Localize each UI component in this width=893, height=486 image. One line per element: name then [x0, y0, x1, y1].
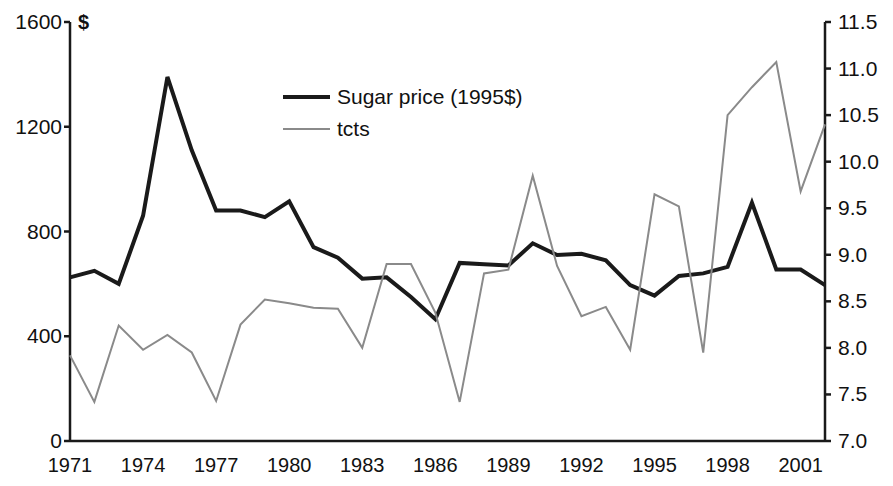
x-axis-tick-label: 1971	[30, 455, 110, 475]
right-axis-tick-label: 11.0	[838, 58, 877, 79]
right-axis-tick-label: 7.0	[838, 430, 867, 451]
x-axis-tick-label: 2001	[761, 455, 841, 475]
left-axis-tick-label: 1200	[0, 116, 62, 137]
x-axis-tick-label: 1980	[249, 455, 329, 475]
right-axis-tick-label: 7.5	[838, 383, 867, 404]
legend-sample-lines	[283, 97, 330, 129]
right-axis-tick-label: 10.0	[838, 151, 879, 172]
x-axis-tick-label: 1995	[615, 455, 695, 475]
legend-label-sugar-price: Sugar price (1995$)	[337, 86, 523, 107]
series-line-sugar-price	[70, 77, 825, 319]
x-axis-tick-label: 1992	[541, 455, 621, 475]
chart-figure: $ 040080012001600 7.07.58.08.59.09.510.0…	[0, 0, 893, 486]
x-axis-tick-label: 1983	[322, 455, 402, 475]
x-axis-tick-label: 1974	[103, 455, 183, 475]
series-lines	[70, 62, 825, 402]
chart-plot-area	[0, 0, 893, 486]
right-axis-tick-label: 8.5	[838, 290, 867, 311]
left-axis-unit-label: $	[78, 12, 89, 32]
series-line-tcts	[70, 62, 825, 402]
x-axis-tick-label: 1989	[468, 455, 548, 475]
left-axis-tick-label: 0	[0, 430, 62, 451]
right-axis-tick-label: 11.5	[838, 11, 877, 32]
right-axis-tick-label: 9.5	[838, 197, 867, 218]
left-axis-tick-label: 800	[0, 221, 62, 242]
legend-label-tcts: tcts	[337, 118, 370, 139]
left-axis-tick-label: 400	[0, 325, 62, 346]
x-axis-tick-label: 1986	[395, 455, 475, 475]
right-axis-tick-label: 8.0	[838, 337, 867, 358]
right-axis-tick-label: 9.0	[838, 244, 867, 265]
x-axis-tick-label: 1998	[688, 455, 768, 475]
x-axis-tick-label: 1977	[176, 455, 256, 475]
right-axis-tick-label: 10.5	[838, 104, 879, 125]
left-axis-tick-label: 1600	[0, 11, 62, 32]
